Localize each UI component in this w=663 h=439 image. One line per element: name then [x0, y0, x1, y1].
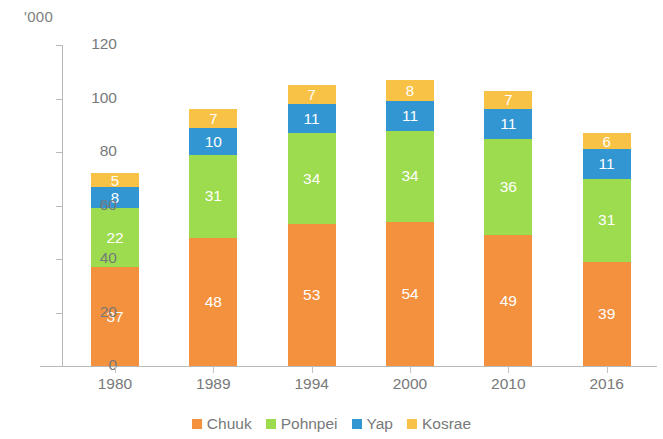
bar-segment-chuuk-1994[interactable]: 53	[288, 224, 336, 366]
bar-segment-pohnpei-1994[interactable]: 34	[288, 133, 336, 224]
bar-1994[interactable]: 7113453	[288, 85, 336, 366]
x-axis-tick-mark	[607, 366, 608, 373]
stacked-bar-chart: '000 58223771031487113453811345471136496…	[0, 0, 663, 439]
chart-legend: ChuukPohnpeiYapKosrae	[0, 415, 663, 433]
bar-segment-value: 54	[401, 286, 418, 302]
legend-swatch-icon	[352, 419, 362, 429]
legend-item-yap[interactable]: Yap	[352, 415, 393, 433]
bar-segment-chuuk-2000[interactable]: 54	[386, 222, 434, 366]
bar-segment-pohnpei-2010[interactable]: 36	[484, 139, 532, 235]
bar-2016[interactable]: 6113139	[583, 133, 631, 366]
legend-item-pohnpei[interactable]: Pohnpei	[266, 415, 338, 433]
bar-segment-yap-2010[interactable]: 11	[484, 109, 532, 138]
y-axis-tick-mark	[56, 99, 63, 100]
y-axis-tick-mark	[56, 366, 63, 367]
bar-segment-value: 31	[598, 212, 615, 228]
bar-segment-chuuk-1989[interactable]: 48	[189, 238, 237, 366]
bar-segment-value: 11	[402, 108, 418, 124]
bar-segment-value: 7	[209, 111, 217, 126]
bar-segment-value: 7	[307, 87, 315, 102]
y-axis-tick-label: 20	[71, 303, 117, 321]
y-axis-tick-mark	[56, 313, 63, 314]
bar-segment-value: 7	[504, 92, 512, 107]
legend-swatch-icon	[266, 419, 276, 429]
y-axis-tick-label: 120	[71, 35, 117, 53]
bar-segment-yap-2016[interactable]: 11	[583, 149, 631, 178]
legend-label: Kosrae	[422, 415, 471, 433]
bar-segment-pohnpei-1989[interactable]: 31	[189, 155, 237, 238]
legend-label: Chuuk	[207, 415, 252, 433]
x-axis-line	[40, 366, 657, 367]
bar-segment-pohnpei-2016[interactable]: 31	[583, 179, 631, 262]
bar-segment-value: 34	[303, 171, 320, 187]
bar-segment-value: 48	[205, 294, 222, 310]
y-axis-tick-label: 0	[71, 356, 117, 374]
legend-swatch-icon	[192, 419, 202, 429]
y-axis-tick-label: 100	[71, 89, 117, 107]
y-axis-tick-label: 80	[71, 142, 117, 160]
legend-label: Yap	[367, 415, 393, 433]
bar-segment-value: 22	[106, 230, 123, 246]
bar-2000[interactable]: 8113454	[386, 80, 434, 366]
bar-1989[interactable]: 7103148	[189, 109, 237, 366]
x-axis-tick-mark	[115, 366, 116, 373]
y-axis-tick-mark	[56, 45, 63, 46]
y-axis-tick-label: 60	[71, 196, 117, 214]
y-axis-tick-mark	[56, 206, 63, 207]
bar-segment-value: 11	[500, 116, 516, 132]
bar-2010[interactable]: 7113649	[484, 91, 532, 367]
bar-segment-value: 53	[303, 287, 320, 303]
x-axis-tick-mark	[312, 366, 313, 373]
bar-segment-kosrae-1989[interactable]: 7	[189, 109, 237, 128]
bar-segment-value: 31	[205, 188, 222, 204]
y-axis-tick-mark	[56, 152, 63, 153]
x-axis-label-1980: 1980	[70, 375, 160, 393]
x-axis-tick-mark	[213, 366, 214, 373]
legend-swatch-icon	[407, 419, 417, 429]
bar-segment-value: 34	[401, 168, 418, 184]
bar-segment-value: 36	[500, 179, 517, 195]
x-axis-label-2000: 2000	[365, 375, 455, 393]
bar-segment-kosrae-2016[interactable]: 6	[583, 133, 631, 149]
x-axis-label-2010: 2010	[463, 375, 553, 393]
bar-segment-value: 8	[406, 83, 414, 98]
x-axis-label-1994: 1994	[267, 375, 357, 393]
bar-segment-yap-1989[interactable]: 10	[189, 128, 237, 155]
bar-segment-value: 6	[602, 134, 610, 149]
x-axis-label-1989: 1989	[168, 375, 258, 393]
bar-segment-kosrae-2000[interactable]: 8	[386, 80, 434, 101]
x-axis-tick-mark	[508, 366, 509, 373]
bar-segment-value: 39	[598, 306, 615, 322]
x-axis-tick-mark	[410, 366, 411, 373]
bar-segment-kosrae-1980[interactable]: 5	[91, 173, 139, 186]
bar-segment-yap-1994[interactable]: 11	[288, 104, 336, 133]
bar-segment-value: 10	[205, 134, 222, 150]
bar-segment-value: 11	[599, 156, 615, 172]
plot-area: 5822377103148711345381134547113649611313…	[62, 45, 652, 366]
bar-segment-kosrae-1994[interactable]: 7	[288, 85, 336, 104]
bar-segment-kosrae-2010[interactable]: 7	[484, 91, 532, 110]
bar-segment-chuuk-2016[interactable]: 39	[583, 262, 631, 366]
y-axis-unit-label: '000	[24, 8, 53, 25]
x-axis-label-2016: 2016	[562, 375, 652, 393]
y-axis-tick-mark	[56, 259, 63, 260]
bar-segment-chuuk-2010[interactable]: 49	[484, 235, 532, 366]
legend-item-kosrae[interactable]: Kosrae	[407, 415, 471, 433]
y-axis-tick-label: 40	[71, 249, 117, 267]
legend-label: Pohnpei	[281, 415, 338, 433]
bar-segment-pohnpei-2000[interactable]: 34	[386, 131, 434, 222]
legend-item-chuuk[interactable]: Chuuk	[192, 415, 252, 433]
bar-segment-value: 5	[111, 173, 119, 188]
bar-segment-value: 11	[304, 111, 320, 127]
bar-segment-value: 49	[500, 293, 517, 309]
bar-segment-yap-2000[interactable]: 11	[386, 101, 434, 130]
